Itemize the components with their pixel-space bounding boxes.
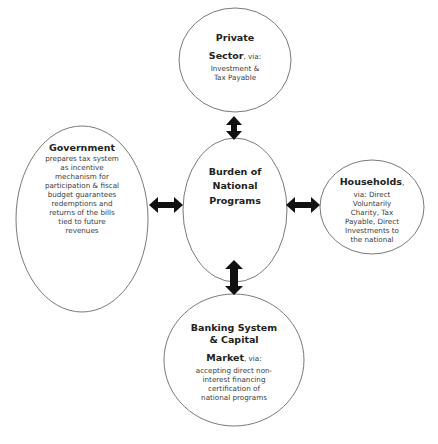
banking-body-line: certification of <box>208 384 260 393</box>
households-body-line: Investments to <box>345 226 399 235</box>
arrow-private-center <box>226 116 242 140</box>
banking-title-line: Banking System <box>191 322 277 334</box>
government-body-line: revenues <box>65 226 98 235</box>
banking-via: , via: <box>244 354 262 363</box>
households-via: , <box>402 178 404 187</box>
private-sector-title-line2: Sector <box>209 50 244 61</box>
households-body-line: via: Direct <box>354 190 391 199</box>
households-body-line: Payable, Direct <box>345 217 399 226</box>
government-node: Government prepares tax system as incent… <box>22 142 142 272</box>
banking-title-line: Market <box>206 352 244 363</box>
banking-title-line: & Capital <box>209 334 258 346</box>
households-title: Households <box>340 176 402 187</box>
arrow-households-center <box>286 197 320 213</box>
private-sector-body-line: Investment & <box>211 64 260 73</box>
banking-node: Banking System & Capital Market, via: ac… <box>179 322 289 412</box>
private-sector-via: , via: <box>244 52 262 61</box>
households-body-line: Voluntarily <box>353 199 391 208</box>
banking-body-line: interest financing <box>203 375 266 384</box>
government-body-line: budget guarantees <box>48 190 117 199</box>
center-title-line: Programs <box>209 194 261 208</box>
government-body-line: participation & fiscal <box>45 181 119 190</box>
center-node: Burden of National Programs <box>190 165 280 225</box>
households-body-line: the national <box>350 235 393 244</box>
banking-body-line: accepting direct non- <box>196 366 272 375</box>
center-title-line: Burden of <box>209 165 262 179</box>
government-body-line: tied to future <box>58 217 105 226</box>
households-node: Households, via: Direct Voluntarily Char… <box>327 170 417 240</box>
government-body-line: prepares tax system <box>45 154 119 163</box>
government-body-line: returns of the bills <box>49 208 115 217</box>
private-sector-node: Private Sector, via: Investment & Tax Pa… <box>185 22 285 92</box>
banking-body-line: national programs <box>201 393 267 402</box>
government-body-line: redemptions and <box>51 199 112 208</box>
government-title: Government <box>49 142 115 154</box>
households-body-line: Charity, Tax <box>351 208 393 217</box>
center-title-line: National <box>212 179 257 193</box>
private-sector-body-line: Tax Payable <box>214 73 256 82</box>
government-body-line: as incentive <box>60 163 103 172</box>
private-sector-title-line1: Private <box>216 32 255 44</box>
arrow-government-center <box>149 197 183 213</box>
government-body-line: mechanism for <box>55 172 109 181</box>
